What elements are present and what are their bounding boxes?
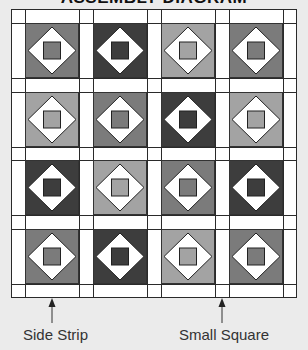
center-square <box>112 42 129 59</box>
center-square <box>44 248 61 265</box>
sashing-line <box>283 9 284 298</box>
quilt-block-medium <box>25 23 79 78</box>
quilt-block-medium <box>25 229 79 284</box>
side-strip-label: Side Strip <box>23 327 88 342</box>
center-square <box>180 248 197 265</box>
center-square <box>180 111 197 128</box>
quilt-block-light <box>161 229 215 284</box>
center-square <box>180 42 197 59</box>
small-square-label: Small Square <box>179 327 269 342</box>
center-square <box>112 248 129 265</box>
quilt-block-dark <box>161 92 215 147</box>
sashing-line <box>11 215 297 216</box>
center-square <box>44 179 61 196</box>
quilt-block-medium <box>161 160 215 215</box>
sashing-line <box>11 78 297 79</box>
quilt-block-dark <box>229 160 283 215</box>
quilt-block-dark <box>93 23 147 78</box>
sashing-line <box>11 147 297 148</box>
quilt-block-medium <box>229 23 283 78</box>
center-square <box>248 111 265 128</box>
center-square <box>112 179 129 196</box>
center-square <box>112 111 129 128</box>
center-square <box>44 42 61 59</box>
sashing-line <box>11 284 297 285</box>
center-square <box>248 179 265 196</box>
quilt-block-medium <box>229 229 283 284</box>
sashing-line <box>215 9 216 298</box>
sashing-line <box>79 9 80 298</box>
small-square-arrow-icon <box>216 298 228 324</box>
center-square <box>248 248 265 265</box>
quilt-assembly-grid <box>11 9 297 298</box>
center-square <box>44 111 61 128</box>
quilt-block-dark <box>25 160 79 215</box>
quilt-block-medium <box>93 92 147 147</box>
side-strip-arrow-icon <box>46 298 58 324</box>
quilt-block-dark <box>93 229 147 284</box>
center-square <box>248 42 265 59</box>
center-square <box>180 179 197 196</box>
quilt-block-light <box>25 92 79 147</box>
quilt-block-light <box>93 160 147 215</box>
quilt-block-light <box>229 92 283 147</box>
sashing-line <box>147 9 148 298</box>
quilt-block-light <box>161 23 215 78</box>
diagram-title: ASSEMBLY DIAGRAM <box>0 0 308 6</box>
